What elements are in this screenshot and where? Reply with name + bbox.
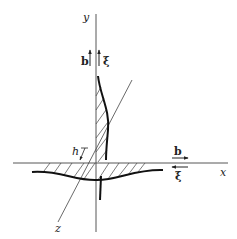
b-vertical-label: b: [81, 55, 89, 68]
x-axis-label: x: [220, 166, 227, 179]
b-horizontal-label: b: [174, 145, 182, 158]
y-axis-label: y: [82, 11, 90, 24]
horizontal-dislocation-line: [32, 170, 163, 180]
horizontal-hatching: [44, 163, 145, 180]
xi-horizontal-label: ξ: [175, 170, 182, 183]
h-label: h: [72, 145, 79, 158]
z-axis-label: z: [54, 222, 61, 235]
dislocation-diagram: h b ξ b ξ y x z: [0, 0, 237, 239]
h-arrow: [80, 148, 85, 160]
z-axis: [58, 80, 132, 222]
xi-vertical-label: ξ: [103, 55, 110, 68]
